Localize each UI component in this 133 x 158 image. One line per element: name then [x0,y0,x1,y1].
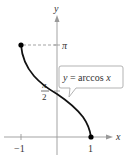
x-axis-label: x [115,131,121,142]
endpoint-left-dot [18,42,23,47]
y-axis-label: y [53,3,59,14]
x-axis-arrow-icon [106,135,113,140]
tick-label-neg1: −1 [14,143,25,154]
tick-label-pi: π [62,40,68,51]
endpoint-right-dot [88,134,93,139]
arccos-graph: x y −1 1 π π 2 y = arccos x [0,0,133,158]
equation-callout: y = arccos x [59,66,123,97]
callout-text: y = arccos x [62,72,111,83]
y-axis-arrow-icon [55,15,60,22]
tick-label-1: 1 [88,143,93,154]
tick-label-pi-half-den: 2 [42,92,47,102]
